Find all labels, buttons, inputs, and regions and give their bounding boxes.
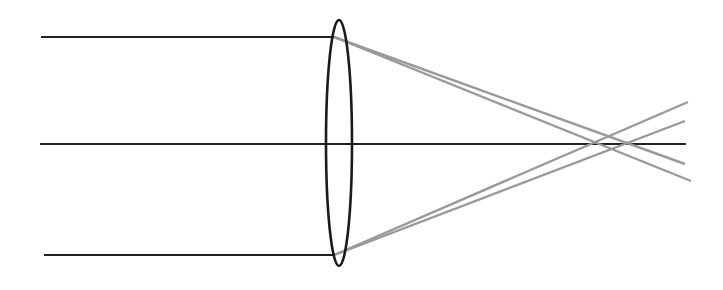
diagram-canvas <box>0 0 723 290</box>
refracted-rays <box>334 37 691 255</box>
refracted-ray-3 <box>334 102 688 255</box>
lens-ray-diagram <box>0 0 723 290</box>
refracted-ray-4 <box>334 121 685 255</box>
refracted-ray-1 <box>334 37 691 181</box>
